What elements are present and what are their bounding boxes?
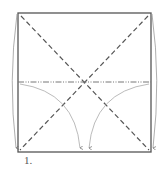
- valley-fold-diagonal-2: [20, 16, 148, 150]
- valley-fold-diagonal-1: [21, 16, 149, 150]
- right-edge-arrow-icon: [152, 14, 157, 148]
- step-label: 1.: [24, 154, 32, 166]
- left-edge-arrow-icon: [12, 14, 17, 148]
- fold-diagram: [0, 0, 166, 177]
- right-fold-arrow-icon: [89, 84, 149, 148]
- left-fold-arrow-icon: [20, 84, 80, 148]
